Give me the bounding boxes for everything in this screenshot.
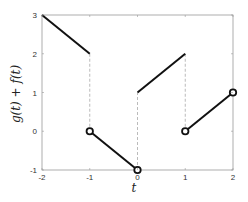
y-tick-label: 1	[33, 89, 38, 98]
y-axis-label: g(t) + f(t)	[9, 65, 23, 123]
axis-ticks: -2-1012-10123	[30, 11, 236, 182]
line-segment	[90, 131, 138, 170]
open-circle-marker	[87, 128, 93, 134]
y-tick-label: 0	[33, 127, 38, 136]
y-tick-label: -1	[30, 166, 38, 175]
x-tick-label: 1	[183, 173, 188, 182]
line-segment	[138, 54, 186, 93]
y-tick-label: 3	[33, 11, 38, 20]
chart: -2-1012-10123 t g(t) + f(t)	[0, 0, 248, 202]
x-tick-label: 2	[231, 173, 236, 182]
x-tick-label: -1	[86, 173, 94, 182]
plot-area	[42, 15, 236, 173]
y-tick-label: 2	[33, 50, 38, 59]
line-segment	[42, 15, 90, 54]
line-segment	[185, 93, 233, 132]
open-circle-marker	[182, 128, 188, 134]
x-tick-label: -2	[38, 173, 46, 182]
x-axis-label: t	[132, 181, 137, 195]
